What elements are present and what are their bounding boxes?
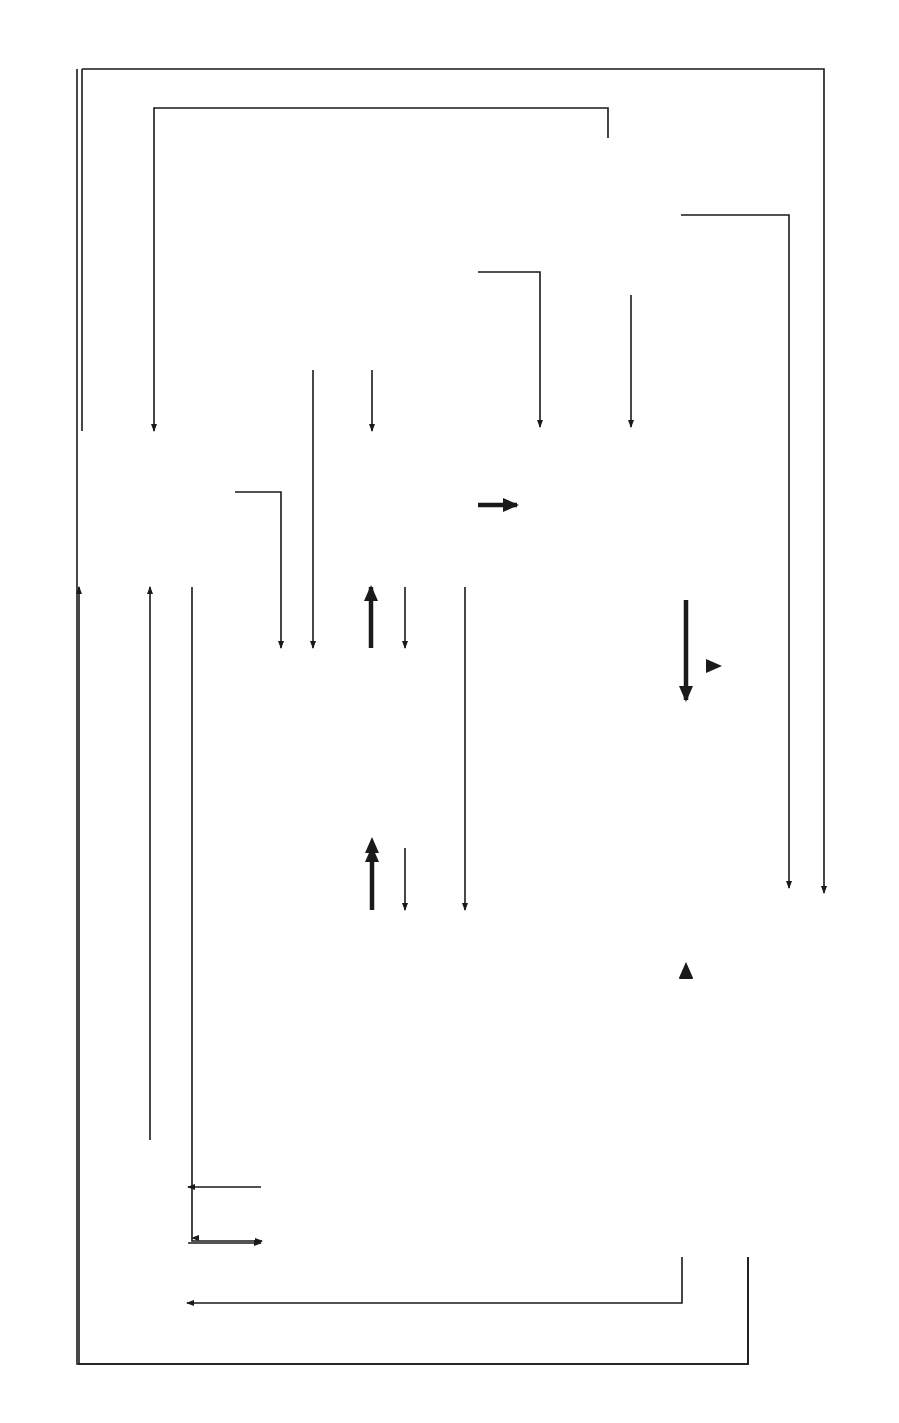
diagram-canvas [0,0,899,1423]
connector-lines [0,0,899,1423]
